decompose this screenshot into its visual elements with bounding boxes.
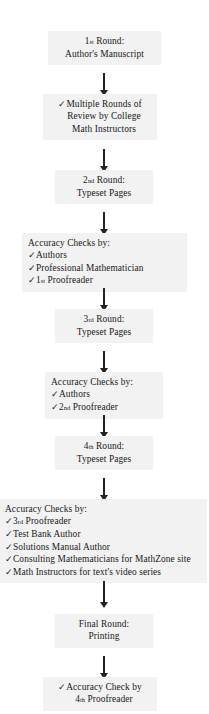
check-icon: ✓ [5,541,13,553]
arrow-8 [103,581,105,602]
accuracy-checks-1-item: ✓Authors [28,249,181,261]
accuracy-checks-2-heading: Accuracy Checks by: [51,376,157,388]
arrow-5 [103,351,105,368]
accuracy-checks-2-item: ✓2nd Proofreader [51,401,157,414]
node-round-1: 1st Round: Author's Manuscript [48,31,161,65]
arrow-6 [103,415,105,432]
node-accuracy-checks-2: Accuracy Checks by: ✓Authors ✓2nd Proofr… [45,372,163,419]
arrow-1 [103,73,105,90]
node-final-round-line-1: Final Round: [61,618,147,630]
node-review-rounds: ✓Multiple Rounds of Review by College Ma… [43,94,157,140]
accuracy-checks-1-item: ✓Professional Mathematician [28,262,181,274]
check-icon: ✓ [5,553,13,565]
accuracy-checks-2-item: ✓Authors [51,388,157,400]
node-round-1-line-2: Author's Manuscript [54,48,155,60]
arrow-3 [103,212,105,229]
check-icon: ✓ [51,401,59,413]
accuracy-checks-3-item: ✓Math Instructors for text's video serie… [5,566,202,578]
node-final-check-line-2: 4th Proofreader [49,693,151,706]
accuracy-checks-3-item: ✓Consulting Mathematicians for MathZone … [5,553,202,565]
check-icon: ✓ [28,274,36,286]
node-final-round: Final Round: Printing [55,614,153,648]
node-round-2: 2nd Round: Typeset Pages [55,170,153,204]
node-round-1-line-1: 1st Round: [54,35,155,48]
node-round-4-line-2: Typeset Pages [61,453,147,465]
node-accuracy-checks-3: Accuracy Checks by: ✓3rd Proofreader ✓Te… [0,499,207,583]
accuracy-checks-1-heading: Accuracy Checks by: [28,237,181,249]
node-round-3-line-1: 3rd Round: [61,313,147,326]
node-round-4: 4th Round: Typeset Pages [55,436,153,470]
arrow-2 [103,149,105,166]
node-round-3-line-2: Typeset Pages [61,326,147,338]
node-round-3: 3rd Round: Typeset Pages [55,309,153,343]
check-icon: ✓ [5,566,13,578]
node-final-check-line-1: ✓Accuracy Check by [49,681,151,693]
check-icon: ✓ [51,388,59,400]
node-final-check: ✓Accuracy Check by 4th Proofreader [43,677,157,711]
node-round-2-line-1: 2nd Round: [61,174,147,187]
accuracy-checks-3-item: ✓Solutions Manual Author [5,541,202,553]
check-icon: ✓ [28,249,36,261]
arrow-7 [103,478,105,495]
node-review-rounds-line-2: Review by College [49,110,151,122]
accuracy-checks-3-item: ✓Test Bank Author [5,528,202,540]
node-review-rounds-line-3: Math Instructors [49,123,151,135]
arrow-9 [103,656,105,673]
node-final-round-line-2: Printing [61,630,147,642]
arrow-4 [103,288,105,305]
accuracy-checks-1-item: ✓1st Proofreader [28,274,181,287]
node-accuracy-checks-1: Accuracy Checks by: ✓Authors ✓Profession… [22,233,187,292]
accuracy-checks-3-item: ✓3rd Proofreader [5,515,202,528]
node-round-4-line-1: 4th Round: [61,440,147,453]
node-round-2-line-2: Typeset Pages [61,187,147,199]
check-icon: ✓ [28,262,36,274]
check-icon: ✓ [5,528,13,540]
accuracy-checks-3-heading: Accuracy Checks by: [5,503,202,515]
process-flowchart: 1st Round: Author's Manuscript ✓Multiple… [0,0,209,714]
check-icon: ✓ [5,515,13,527]
node-review-rounds-line-1: ✓Multiple Rounds of [49,98,151,110]
